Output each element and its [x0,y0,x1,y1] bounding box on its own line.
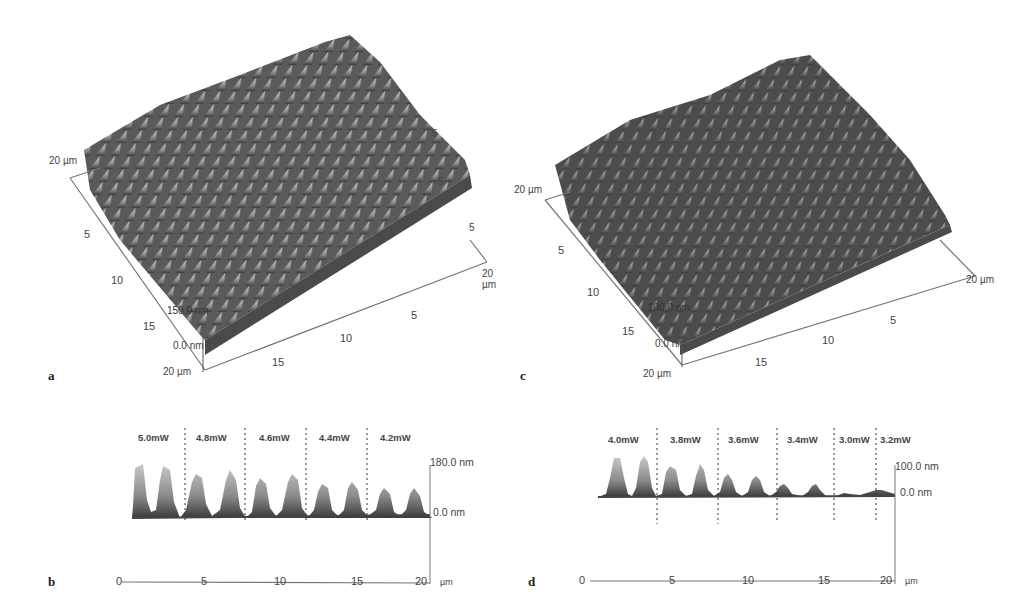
x-tick-15: 15 [818,574,830,586]
z-bottom-label: 0.0 nm [655,338,686,349]
y-tick-15: 15 [143,320,155,332]
x-tick-end: 20 µm [482,268,500,290]
afm-surface-c [510,0,1023,400]
power-label-3: 3.6mW [728,434,759,445]
power-label-1: 4.0mW [608,434,639,445]
power-label-2: 4.8mW [196,432,227,443]
z-bottom-label: 0.0 nm [173,340,204,351]
x-tick-5: 5 [201,575,207,587]
x-tick-10: 10 [340,332,352,344]
y-tick-10: 10 [111,274,123,286]
y-tick-5: 5 [558,244,564,256]
z-top-label: 180.0 nm [430,456,474,468]
y-tick-10: 10 [587,286,599,298]
power-label-5: 3.0mW [839,434,870,445]
power-label-3: 4.6mW [259,432,290,443]
x-tick-5: 5 [669,574,675,586]
y-tick-5: 5 [84,228,90,240]
x-tick-0: 0 [579,574,585,586]
z-top-label: 100.0 nm [895,460,939,472]
x-tick-5: 5 [411,309,417,321]
z-top-label: 100.0 nm [648,302,690,313]
x-tick-15: 15 [351,575,363,587]
x-tick-15: 15 [755,356,767,368]
x-tick-15: 15 [272,356,284,368]
back-tick-3: 5 [469,222,475,233]
power-label-5: 4.2mW [380,432,411,443]
y-tick-top: 20 µm [514,184,542,195]
power-label-4: 3.4mW [787,434,818,445]
x-tick-10: 10 [274,575,286,587]
panel-d-profile: d 4.0mW 3.8mW 3.6mW 3.4mW 3.0mW 3.2mW 10… [510,400,1023,602]
z-zero-label: 0.0 nm [433,506,465,518]
profile-plot-b [0,400,510,602]
panel-b-profile: b 5.0mW 4.8mW 4.6mW 4.4mW 4.2mW 180.0 nm… [0,400,510,602]
x-tick-20: 20 [415,575,427,587]
power-label-2: 3.8mW [670,434,701,445]
x-tick-10: 10 [822,334,834,346]
y-tick-15: 15 [622,325,634,337]
z-zero-label: 0.0 nm [900,486,932,498]
z-top-label: 150.0 nm [167,305,209,316]
profile-plot-d [510,400,1023,602]
panel-letter-d: d [528,574,535,590]
power-label-1: 5.0mW [138,432,169,443]
x-tick-20: 20 [880,574,892,586]
power-label-4: 4.4mW [319,432,350,443]
x-unit: µm [905,576,918,586]
power-label-6: 3.2mW [880,434,911,445]
back-tick-1: 5 [432,128,438,139]
x-tick-10: 10 [742,574,754,586]
afm-surface-a [0,0,500,400]
y-tick-bottom: 20 µm [643,368,671,379]
x-tick-5: 5 [890,314,896,326]
y-tick-top: 20 µm [49,155,77,166]
panel-c-3d-afm: c 20 µm 5 10 15 20 µm 100.0 nm 0.0 nm 15… [510,0,1023,400]
y-tick-bottom: 20 µm [163,366,191,377]
panel-a-3d-afm: a 20 µm 5 10 15 20 µm 150.0 nm 0.0 nm 15… [0,0,500,400]
panel-letter-c: c [520,368,526,384]
panel-letter-b: b [48,574,55,590]
x-unit: µm [440,577,453,587]
x-tick-end: 20 µm [966,274,994,285]
x-tick-0: 0 [116,575,122,587]
panel-letter-a: a [48,368,55,384]
back-tick-2: 5 [438,176,444,187]
